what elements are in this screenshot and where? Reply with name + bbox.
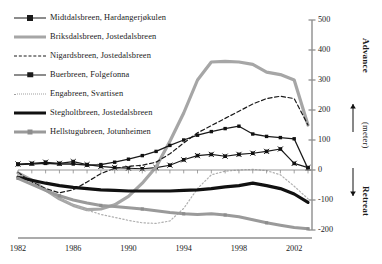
series-marker <box>265 135 268 138</box>
series-marker <box>127 158 130 161</box>
series-marker <box>141 207 144 210</box>
series-marker <box>16 163 19 166</box>
series-marker <box>196 134 199 137</box>
series-marker <box>279 136 282 139</box>
series-marker <box>182 212 185 215</box>
axis-label-unit: (meter) <box>361 122 371 149</box>
series-marker <box>168 144 171 147</box>
series-line <box>18 126 308 169</box>
axis-layer <box>18 20 356 238</box>
x-axis-tick-label: 1986 <box>53 244 93 253</box>
series-marker <box>99 204 102 207</box>
y-axis-tick-label: -100 <box>318 195 333 204</box>
series-marker <box>113 161 116 164</box>
series-marker <box>223 127 226 130</box>
series-marker <box>210 130 213 133</box>
series-marker <box>237 125 240 128</box>
series-marker <box>85 164 88 167</box>
axis-label-advance: Advance <box>361 38 371 73</box>
series-marker <box>58 162 61 165</box>
y-axis-tick-label: 100 <box>318 135 330 144</box>
y-axis-tick-label: 0 <box>318 165 322 174</box>
x-axis-tick-label: 1990 <box>108 244 148 253</box>
series-marker <box>72 162 75 165</box>
series-marker <box>251 132 254 135</box>
x-axis-tick-label: 2002 <box>274 244 314 253</box>
series-marker <box>16 177 19 180</box>
series-marker <box>182 138 185 141</box>
x-axis-tick-label: 1994 <box>164 244 204 253</box>
series-marker <box>58 194 61 197</box>
axis-label-retreat: Retreat <box>361 186 371 216</box>
series-marker <box>265 221 268 224</box>
series-marker <box>154 150 157 153</box>
y-axis-tick-label: 200 <box>318 105 330 114</box>
y-axis-tick-label: 400 <box>318 45 330 54</box>
series-line <box>18 96 308 193</box>
series-marker <box>224 213 227 216</box>
series-marker <box>99 163 102 166</box>
series-marker <box>30 162 33 165</box>
y-axis-tick-label: -200 <box>318 225 333 234</box>
series-marker <box>292 137 295 140</box>
arrow-down-icon-head <box>350 191 356 196</box>
y-axis-tick-label: 500 <box>318 15 330 24</box>
series-marker <box>44 162 47 165</box>
y-axis-tick-label: 300 <box>318 75 330 84</box>
arrow-up-icon-head <box>350 104 356 109</box>
series-marker <box>141 154 144 157</box>
x-axis-tick-label: 1982 <box>0 244 38 253</box>
series-layer <box>15 61 310 230</box>
x-axis-tick-label: 1998 <box>219 244 259 253</box>
glacier-front-position-chart: Midtdalsbreen, Hardangerjøkulen Briksdal… <box>0 0 382 264</box>
